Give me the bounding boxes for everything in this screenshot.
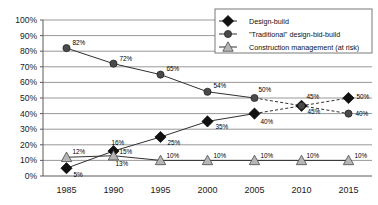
data-point-label: 65% xyxy=(167,65,180,72)
data-point-marker xyxy=(251,94,258,101)
y-tick-label: 100% xyxy=(15,15,37,25)
data-point-marker xyxy=(202,116,213,127)
data-point-marker xyxy=(204,88,211,95)
data-point-label: 10% xyxy=(167,152,180,159)
data-point-label: 13% xyxy=(116,160,129,167)
y-tick-label: 50% xyxy=(20,93,37,103)
data-point-marker xyxy=(110,60,117,67)
data-point-label: 72% xyxy=(120,55,133,62)
annotation-label-cm-1990: 15% xyxy=(120,148,133,155)
x-tick-label: 2015 xyxy=(338,185,358,195)
y-tick-label: 70% xyxy=(20,62,37,72)
x-tick-label: 2005 xyxy=(244,185,264,195)
data-point-marker xyxy=(157,71,164,78)
data-point-marker xyxy=(249,108,260,119)
data-point-label: 50% xyxy=(357,93,370,100)
data-point-label: 10% xyxy=(261,152,274,159)
legend: Design-build"Traditional" design-bid-bui… xyxy=(215,9,372,53)
y-tick-label: 20% xyxy=(20,140,37,150)
data-point-label: 54% xyxy=(214,82,227,89)
x-tick-label: 1990 xyxy=(103,185,123,195)
data-point-label: 10% xyxy=(355,152,368,159)
y-tick-label: 40% xyxy=(20,109,37,119)
data-point-label: 50% xyxy=(259,86,272,93)
data-point-marker xyxy=(63,44,70,51)
y-tick-label: 10% xyxy=(20,155,37,165)
legend-entry-label: Design-build xyxy=(249,17,289,26)
legend-entry-label: "Traditional" design-bid-build xyxy=(249,30,340,39)
legend-marker xyxy=(224,30,231,37)
legend-entry-label: Construction management (at risk) xyxy=(249,43,359,52)
data-point-label: 25% xyxy=(168,139,181,146)
chart-container: 0%10%20%30%40%50%60%70%80%90%100% 198519… xyxy=(0,0,378,205)
data-point-marker xyxy=(155,131,166,142)
data-point-label: 82% xyxy=(73,39,86,46)
y-tick-label: 90% xyxy=(20,31,37,41)
data-point-label: 45% xyxy=(307,93,320,100)
data-point-label: 45% xyxy=(308,108,321,115)
data-point-label: 40% xyxy=(356,110,369,117)
data-point-label: 16% xyxy=(112,139,125,146)
data-point-marker xyxy=(343,92,354,103)
x-tick-label: 1985 xyxy=(56,185,76,195)
data-point-label: 12% xyxy=(73,148,86,155)
y-axis-tick-labels: 0%10%20%30%40%50%60%70%80%90%100% xyxy=(15,15,37,181)
x-tick-label: 1995 xyxy=(150,185,170,195)
x-tick-label: 2010 xyxy=(291,185,311,195)
y-tick-label: 80% xyxy=(20,46,37,56)
data-point-label: 35% xyxy=(216,123,229,130)
y-tick-label: 60% xyxy=(20,77,37,87)
data-point-label: 40% xyxy=(261,118,274,125)
x-tick-label: 2000 xyxy=(197,185,217,195)
data-point-label: 10% xyxy=(214,152,227,159)
data-point-marker xyxy=(298,102,305,109)
data-point-marker xyxy=(345,110,352,117)
x-axis-tick-labels: 1985199019952000200520102015 xyxy=(56,185,358,195)
data-point-label: 10% xyxy=(307,152,320,159)
line-chart: 0%10%20%30%40%50%60%70%80%90%100% 198519… xyxy=(0,0,378,205)
data-point-label: 5% xyxy=(74,171,84,178)
y-tick-label: 30% xyxy=(20,124,37,134)
data-point-marker xyxy=(61,163,72,174)
y-tick-label: 0% xyxy=(25,171,38,181)
